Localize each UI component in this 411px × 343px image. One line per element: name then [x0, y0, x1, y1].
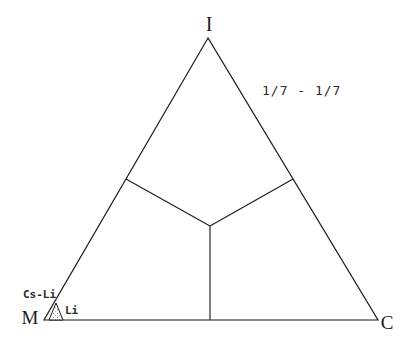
- vertex-label-bottom-right: C: [381, 312, 394, 333]
- marker-region-label: Cs-Li: [23, 288, 56, 301]
- fraction-annotation: 1/7 - 1/7: [262, 83, 341, 98]
- partition-line-right: [210, 179, 293, 226]
- vertex-label-top: I: [206, 13, 213, 35]
- marker-point-label: Li: [65, 304, 79, 317]
- sample-marker-triangle: [49, 303, 63, 320]
- partition-line-left: [126, 179, 210, 226]
- vertex-label-bottom-left: M: [22, 307, 39, 328]
- ternary-diagram-canvas: I M C 1/7 - 1/7 Cs-Li Li: [0, 0, 411, 343]
- ternary-diagram: I M C 1/7 - 1/7 Cs-Li Li: [0, 0, 411, 343]
- triangle-outline: [44, 38, 378, 320]
